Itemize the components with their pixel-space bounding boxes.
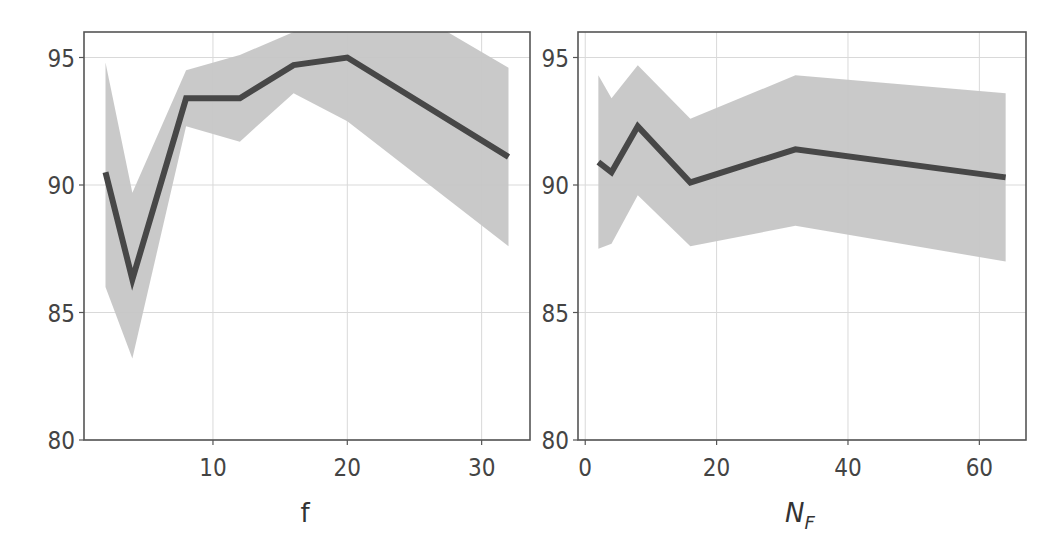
right-x-axis-label: NF (785, 498, 815, 533)
y-tick-label: 95 (48, 45, 75, 73)
y-tick-label: 95 (542, 45, 569, 73)
right-x-axis-label-main: N (785, 498, 804, 528)
left-chart-panel: 10203080859095 f (48, 0, 530, 528)
x-tick-label: 10 (199, 454, 226, 482)
y-tick-label: 85 (542, 300, 569, 328)
right-x-axis-label-subscript: F (805, 512, 816, 533)
x-tick-label: 60 (966, 454, 993, 482)
left-confidence-band (105, 0, 508, 358)
figure: 10203080859095 f 020406080859095 NF (0, 0, 1059, 551)
x-tick-label: 40 (834, 454, 861, 482)
y-tick-label: 80 (542, 427, 569, 455)
y-tick-label: 85 (48, 300, 75, 328)
x-tick-label: 20 (703, 454, 730, 482)
right-chart-panel: 020406080859095 NF (542, 32, 1026, 533)
y-tick-label: 80 (48, 427, 75, 455)
y-tick-label: 90 (48, 172, 75, 200)
x-tick-label: 20 (334, 454, 361, 482)
left-x-axis-label: f (300, 498, 310, 528)
right-confidence-band (598, 65, 1005, 261)
x-tick-label: 30 (468, 454, 495, 482)
x-tick-label: 0 (578, 454, 592, 482)
y-tick-label: 90 (542, 172, 569, 200)
